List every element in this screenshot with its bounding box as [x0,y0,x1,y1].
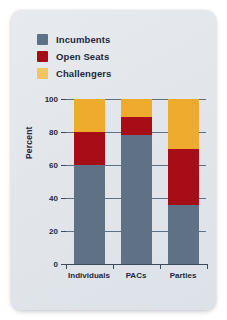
bar-pacs[interactable] [121,99,152,264]
axis-area: 020406080100 [66,99,206,264]
chart-legend: Incumbents Open Seats Challengers [37,32,177,83]
bar-segment-open-seats[interactable] [121,117,152,135]
x-axis-label-pacs: PACs [126,271,147,280]
bar-segment-incumbents[interactable] [168,205,199,264]
y-axis-tick [61,231,66,232]
legend-label-challengers: Challengers [56,68,111,79]
legend-swatch-open-seats [37,51,48,62]
x-axis-tick [207,264,208,269]
y-axis-tick [61,132,66,133]
legend-item-incumbents: Incumbents [37,32,177,47]
y-axis-tick [61,198,66,199]
legend-item-challengers: Challengers [37,66,177,81]
chart-card: Incumbents Open Seats Challengers Percen… [11,10,216,310]
legend-swatch-challengers [37,68,48,79]
bar-segment-open-seats[interactable] [168,149,199,205]
x-axis-tick [113,264,114,269]
y-axis-tick-label: 0 [54,260,58,269]
y-axis-tick-label: 80 [49,128,58,137]
x-axis-tick [160,264,161,269]
legend-label-incumbents: Incumbents [56,34,110,45]
x-axis-label-individuals: Individuals [68,271,110,280]
y-axis-tick-label: 60 [49,161,58,170]
x-axis-label-parties: Parties [170,271,197,280]
bar-segment-incumbents[interactable] [74,165,105,264]
x-axis-tick [66,264,67,269]
bar-segment-open-seats[interactable] [74,132,105,165]
bar-parties[interactable] [168,99,199,264]
y-axis-tick-label: 20 [49,227,58,236]
y-axis-title: Percent [24,126,34,159]
y-axis-tick-label: 100 [45,95,58,104]
chart-plot-area: Percent 020406080100 IndividualsPACsPart… [66,99,206,274]
x-axis-baseline [65,264,207,265]
bar-segment-incumbents[interactable] [121,135,152,264]
bar-segment-challengers[interactable] [168,99,199,149]
y-axis-tick [61,165,66,166]
bar-segment-challengers[interactable] [74,99,105,132]
legend-item-open-seats: Open Seats [37,49,177,64]
y-axis-tick-label: 40 [49,194,58,203]
y-axis-tick [61,99,66,100]
legend-swatch-incumbents [37,34,48,45]
legend-label-open-seats: Open Seats [56,51,109,62]
bar-individuals[interactable] [74,99,105,264]
bar-segment-challengers[interactable] [121,99,152,117]
